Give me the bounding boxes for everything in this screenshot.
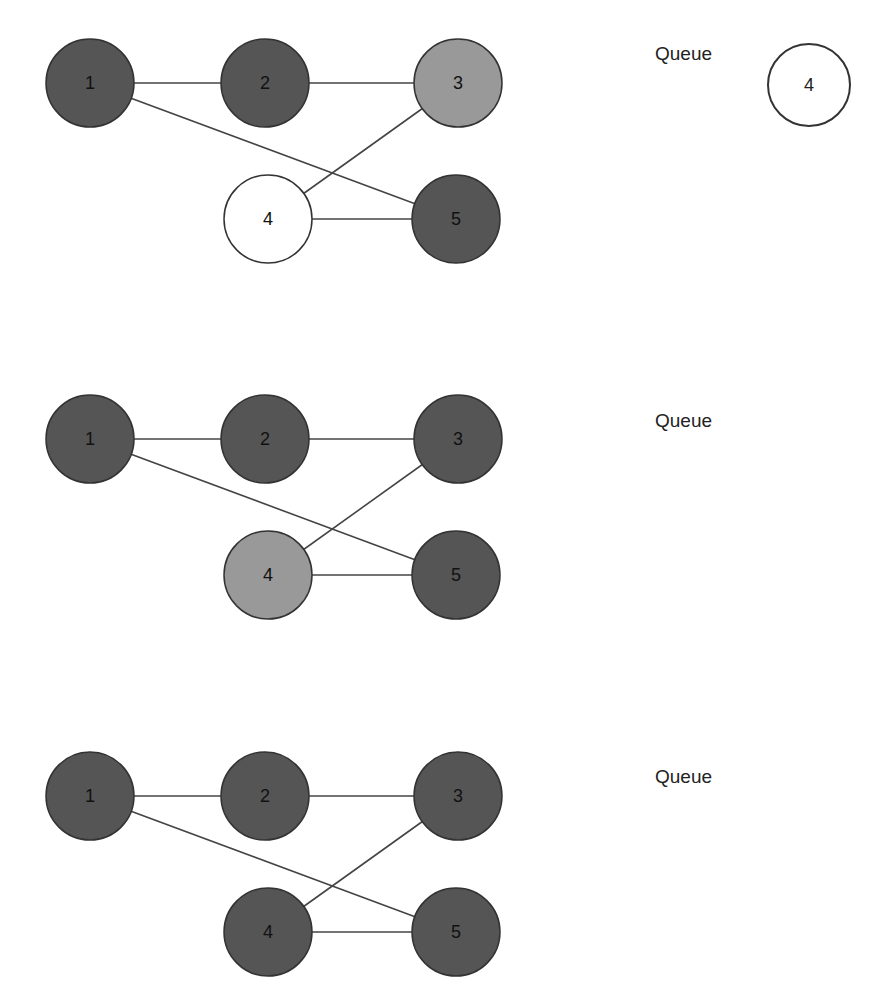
graph-node-2: 2 <box>221 395 309 483</box>
node-label: 5 <box>451 922 461 942</box>
bfs-step-1: 12345 Queue 4 <box>0 0 885 300</box>
graph-step-3: 12345 <box>0 713 560 1005</box>
graph-node-2: 2 <box>221 752 309 840</box>
node-label: 4 <box>263 209 273 229</box>
queue-label: Queue <box>655 43 712 65</box>
graph-step-1: 12345 <box>0 0 560 300</box>
graph-node-2: 2 <box>221 39 309 127</box>
node-label: 5 <box>451 565 461 585</box>
graph-node-1: 1 <box>46 752 134 840</box>
graph-step-2: 12345 <box>0 356 560 656</box>
graph-node-5: 5 <box>412 531 500 619</box>
node-label: 4 <box>263 565 273 585</box>
graph-node-5: 5 <box>412 175 500 263</box>
node-label: 2 <box>260 786 270 806</box>
graph-node-4: 4 <box>224 175 312 263</box>
graph-node-3: 3 <box>414 395 502 483</box>
queue-label: Queue <box>655 766 712 788</box>
graph-node-4: 4 <box>224 888 312 976</box>
queue-item: 4 <box>767 43 851 127</box>
graph-node-1: 1 <box>46 39 134 127</box>
node-label: 1 <box>85 429 95 449</box>
node-label: 5 <box>451 209 461 229</box>
graph-node-1: 1 <box>46 395 134 483</box>
node-label: 1 <box>85 786 95 806</box>
node-label: 3 <box>453 429 463 449</box>
node-label: 2 <box>260 73 270 93</box>
graph-node-4: 4 <box>224 531 312 619</box>
node-label: 2 <box>260 429 270 449</box>
graph-node-3: 3 <box>414 39 502 127</box>
node-label: 1 <box>85 73 95 93</box>
bfs-step-3: 12345 Queue <box>0 713 885 1005</box>
graph-node-3: 3 <box>414 752 502 840</box>
node-label: 3 <box>453 73 463 93</box>
node-label: 3 <box>453 786 463 806</box>
bfs-step-2: 12345 Queue <box>0 356 885 656</box>
graph-node-5: 5 <box>412 888 500 976</box>
queue-label: Queue <box>655 410 712 432</box>
node-label: 4 <box>263 922 273 942</box>
